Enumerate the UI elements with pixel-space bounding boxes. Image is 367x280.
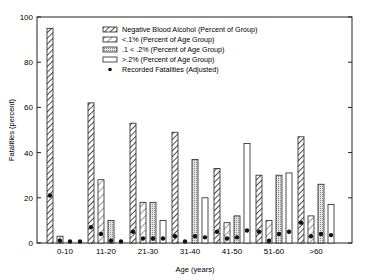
y-tick-label: 20	[24, 194, 33, 203]
fatality-marker	[89, 225, 93, 229]
fatality-marker	[109, 239, 113, 243]
bar	[308, 216, 314, 243]
legend-label: <.1% (Percent of Age Group)	[122, 35, 215, 44]
bar	[244, 144, 250, 243]
bar	[47, 28, 53, 243]
fatality-marker	[257, 230, 261, 234]
fatality-marker	[151, 236, 155, 240]
legend-swatch	[103, 27, 117, 32]
x-tick-label: 11-20	[96, 247, 116, 256]
y-axis-title: Fatalities (percent)	[7, 98, 16, 161]
bar	[130, 123, 136, 243]
fatality-marker	[193, 234, 197, 238]
fatality-marker	[161, 236, 165, 240]
fatality-marker	[68, 239, 72, 243]
legend-label: >.2% (Percent of Age Group)	[122, 55, 215, 64]
x-axis-title: Age (years)	[176, 265, 215, 274]
legend-swatch	[103, 57, 117, 62]
y-tick-label: 0	[29, 239, 34, 248]
legend-label: Recorded Fatalities (Adjusted)	[122, 65, 219, 74]
fatality-marker	[235, 235, 239, 239]
x-tick-label: >60	[309, 247, 323, 256]
bar	[172, 132, 178, 243]
x-tick-label: 21-30	[138, 247, 159, 256]
fatality-marker	[277, 232, 281, 236]
legend: Negative Blood Alcohol (Percent of Group…	[103, 25, 257, 74]
chart: 0204060801000-1011-2021-3031-4041-5051-6…	[0, 0, 367, 280]
y-tick-label: 100	[20, 13, 34, 22]
legend-swatch	[103, 47, 117, 52]
legend-swatch	[103, 37, 117, 42]
bar	[192, 159, 198, 243]
fatality-marker	[215, 230, 219, 234]
fatality-marker	[119, 239, 123, 243]
fatality-marker	[245, 228, 249, 232]
fatality-marker	[225, 236, 229, 240]
fatality-marker	[141, 236, 145, 240]
y-tick-label: 80	[24, 58, 33, 67]
fatality-marker	[203, 235, 207, 239]
bar	[88, 103, 94, 243]
fatality-marker	[267, 239, 271, 243]
fatality-marker	[299, 220, 303, 224]
y-tick-label: 60	[24, 103, 33, 112]
fatality-marker	[78, 239, 82, 243]
fatality-marker	[173, 234, 177, 238]
fatality-marker	[183, 239, 187, 243]
legend-label: Negative Blood Alcohol (Percent of Group…	[122, 25, 257, 34]
fatality-marker	[131, 230, 135, 234]
x-tick-label: 0-10	[57, 247, 74, 256]
legend-label: .1 < .2% (Percent of Age Group)	[122, 45, 224, 54]
fatality-marker	[58, 239, 62, 243]
fatality-marker	[329, 233, 333, 237]
y-tick-label: 40	[24, 149, 33, 158]
fatality-marker	[287, 230, 291, 234]
x-tick-label: 41-50	[222, 247, 243, 256]
bar	[298, 137, 304, 243]
fatality-marker	[319, 232, 323, 236]
x-tick-label: 31-40	[180, 247, 201, 256]
fatality-marker	[309, 234, 313, 238]
x-tick-label: 51-60	[264, 247, 285, 256]
legend-marker	[108, 68, 112, 72]
fatality-marker	[48, 193, 52, 197]
fatality-marker	[99, 232, 103, 236]
